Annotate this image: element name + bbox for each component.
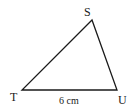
vertex-label-u: U: [118, 93, 127, 107]
side-length-tu: 6 cm: [59, 95, 79, 106]
vertex-label-s: S: [84, 5, 91, 19]
vertex-label-t: T: [10, 90, 18, 104]
triangle-stu: [22, 20, 117, 90]
triangle-diagram: S T U 6 cm: [0, 0, 132, 108]
